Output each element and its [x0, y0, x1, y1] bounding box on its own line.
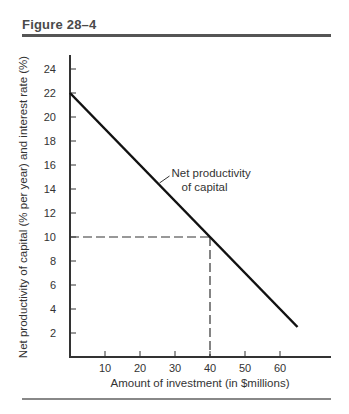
x-tick-label: 60: [274, 362, 286, 374]
ticks: 24681012141618202224102030405060: [44, 63, 286, 374]
x-axis-label: Amount of investment (in $millions): [111, 377, 290, 389]
series: [70, 93, 298, 327]
dashed-guides: [70, 237, 210, 357]
x-tick-label: 10: [99, 362, 111, 374]
y-tick-label: 20: [44, 111, 56, 123]
y-tick-label: 24: [44, 63, 56, 75]
annotations: Net productivityof capital: [160, 167, 252, 193]
y-tick-label: 6: [50, 279, 56, 291]
x-tick-label: 50: [239, 362, 251, 374]
net-productivity-line: [70, 93, 298, 327]
annotation-label: Net productivityof capital: [172, 167, 252, 193]
chart: 24681012141618202224102030405060 Net pro…: [0, 0, 349, 414]
bottom-rule: [22, 398, 331, 400]
x-tick-label: 20: [134, 362, 146, 374]
y-axis-label: Net productivity of capital (% per year)…: [17, 56, 29, 358]
y-tick-label: 18: [44, 135, 56, 147]
annotation-leader: [160, 176, 170, 183]
y-tick-label: 22: [44, 87, 56, 99]
y-tick-label: 4: [50, 303, 56, 315]
y-tick-label: 10: [44, 231, 56, 243]
y-tick-label: 8: [50, 255, 56, 267]
axes: [69, 55, 331, 357]
y-tick-label: 16: [44, 159, 56, 171]
y-tick-label: 12: [44, 207, 56, 219]
x-tick-label: 30: [169, 362, 181, 374]
y-tick-label: 2: [50, 327, 56, 339]
x-tick-label: 40: [204, 362, 216, 374]
y-tick-label: 14: [44, 183, 56, 195]
